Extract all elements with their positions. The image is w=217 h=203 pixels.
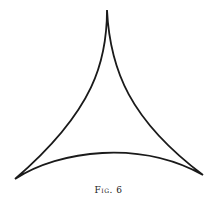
- figure-caption: Fig. 6: [0, 185, 217, 195]
- deltoid-curve: [15, 10, 203, 179]
- deltoid-figure: [0, 0, 217, 203]
